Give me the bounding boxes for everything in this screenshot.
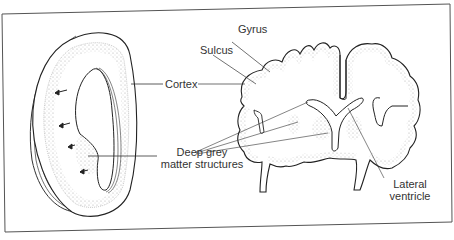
hemisphere-shell: [30, 33, 163, 217]
label-cortex: Cortex: [165, 78, 197, 90]
label-deep-grey-matter: Deep grey matter structures: [146, 146, 258, 170]
label-lateral-line2: ventricle: [390, 190, 431, 202]
label-lateral-ventricle: Lateral ventricle: [380, 178, 440, 202]
label-gyrus: Gyrus: [238, 23, 267, 35]
label-sulcus: Sulcus: [200, 44, 233, 56]
label-deep-grey-line2: matter structures: [161, 158, 244, 170]
label-lateral-line1: Lateral: [393, 178, 427, 190]
label-deep-grey-line1: Deep grey: [177, 146, 228, 158]
